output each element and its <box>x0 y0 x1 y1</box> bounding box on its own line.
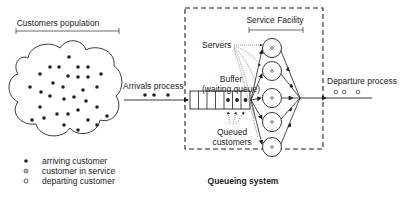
server-3 <box>263 89 282 108</box>
queueing-diagram: Customers population arriving customer c… <box>0 0 407 198</box>
arrivals-label: Arrivals process <box>123 81 183 91</box>
servers <box>263 39 282 157</box>
queued-sublabel: customers <box>212 137 251 147</box>
departure-label: Departure process <box>327 76 397 86</box>
buffer-queue: Buffer (waiting queue) <box>190 74 260 109</box>
server-5 <box>263 138 282 157</box>
legend: arriving customer customer in service de… <box>24 156 115 186</box>
population-label: Customers population <box>17 18 100 28</box>
departure-process: Departure process <box>300 76 397 98</box>
server-2 <box>263 62 282 81</box>
queueing-system-boundary <box>185 8 323 149</box>
arriving-customer-icon <box>24 159 28 163</box>
departing-customer-icon <box>24 179 28 183</box>
merge-arrows <box>281 51 300 144</box>
arriving-customer-dots <box>28 55 109 132</box>
legend-arriving: arriving customer <box>42 156 107 166</box>
server-4 <box>263 113 282 132</box>
buffer-sublabel: (waiting queue) <box>202 84 260 94</box>
legend-departing: departing customer <box>42 176 115 186</box>
dispatch-arrows <box>251 50 262 144</box>
legend-in-service: customer in service <box>42 166 115 176</box>
arrivals-process: Arrivals process <box>123 81 188 100</box>
population-span: Customers population <box>16 18 119 34</box>
queued-label: Queued <box>217 127 248 137</box>
servers-label: Servers <box>202 40 231 50</box>
buffer-label: Buffer <box>220 74 243 84</box>
queued-customers-annotation: Queued customers <box>212 112 251 147</box>
service-facility-span: Service Facility <box>246 15 304 33</box>
service-facility-label: Service Facility <box>246 15 304 25</box>
server-1 <box>263 39 282 58</box>
queueing-system-label: Queueing system <box>208 176 279 186</box>
customer-population-cloud <box>9 41 122 136</box>
